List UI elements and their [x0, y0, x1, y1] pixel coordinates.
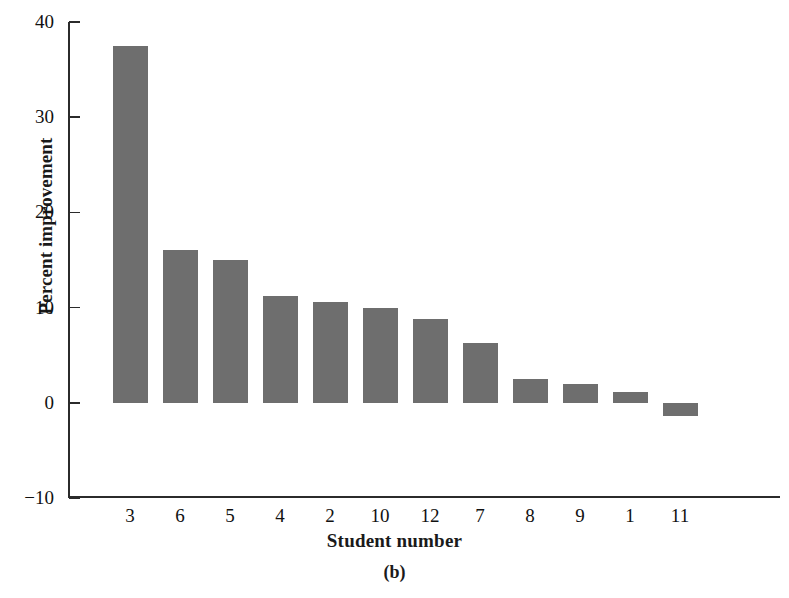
y-axis-tick-label: 10	[0, 298, 54, 317]
plot-area: 403020100−10 365421012789111	[68, 22, 780, 498]
y-axis-line	[68, 22, 70, 498]
x-axis-line	[68, 496, 780, 498]
bar	[513, 379, 548, 403]
bar	[463, 343, 498, 403]
y-axis-tick	[69, 116, 80, 118]
y-axis-tick-label: 0	[0, 393, 54, 412]
y-axis-tick-label: 30	[0, 107, 54, 126]
bar	[313, 302, 348, 403]
x-axis-tick-label: 11	[650, 506, 710, 525]
y-axis-tick-label: −10	[0, 488, 54, 507]
y-axis-tick-label: 40	[0, 12, 54, 31]
x-axis-title: Student number	[0, 530, 789, 552]
bar	[163, 250, 198, 402]
bar	[663, 403, 698, 416]
bar	[613, 392, 648, 402]
y-axis-tick	[69, 402, 80, 404]
y-axis-tick	[69, 497, 80, 499]
y-axis-tick	[69, 307, 80, 309]
bar	[263, 296, 298, 403]
y-axis-tick-label: 20	[0, 202, 54, 221]
bar	[113, 46, 148, 403]
figure-caption: (b)	[0, 562, 789, 583]
bar	[363, 308, 398, 403]
bar	[213, 260, 248, 403]
y-axis-tick	[69, 21, 80, 23]
bar	[413, 319, 448, 403]
bar	[563, 384, 598, 403]
bar-chart-figure: Percent improvement 403020100−10 3654210…	[0, 0, 789, 598]
y-axis-tick	[69, 212, 80, 214]
